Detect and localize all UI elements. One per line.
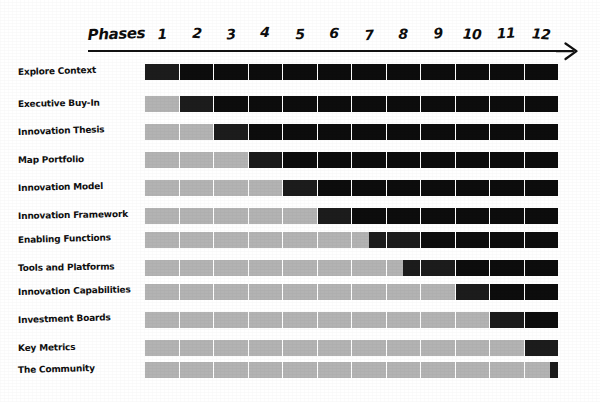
phase-cell bbox=[490, 312, 525, 328]
phase-cell bbox=[421, 312, 456, 328]
phase-cell bbox=[249, 312, 284, 328]
phase-cell bbox=[421, 362, 456, 378]
row-label: Key Metrics bbox=[18, 342, 75, 353]
phase-cell bbox=[283, 340, 318, 356]
row-bar bbox=[145, 340, 558, 356]
row-bar bbox=[145, 260, 558, 276]
row-bar bbox=[145, 362, 558, 378]
phase-cell bbox=[145, 284, 180, 300]
phase-cell bbox=[283, 180, 318, 196]
phase-cell bbox=[387, 232, 422, 248]
phase-cell bbox=[145, 124, 180, 140]
chart-row: Innovation Thesis bbox=[0, 124, 600, 140]
phase-label-9: 9 bbox=[423, 24, 453, 43]
phase-cell bbox=[456, 208, 491, 224]
row-bar bbox=[145, 232, 558, 248]
phase-cell bbox=[525, 124, 559, 140]
phase-cell bbox=[318, 64, 353, 80]
phase-cell bbox=[214, 124, 249, 140]
row-label: The Community bbox=[18, 363, 95, 375]
phase-cell bbox=[249, 284, 284, 300]
phase-cell bbox=[180, 312, 215, 328]
phase-cell bbox=[352, 152, 387, 168]
phase-cell bbox=[283, 260, 318, 276]
phase-cell bbox=[145, 152, 180, 168]
row-label: Innovation Capabilities bbox=[18, 284, 131, 297]
phase-cell-light-part bbox=[525, 362, 550, 378]
phase-cell bbox=[214, 96, 249, 112]
phase-cell bbox=[352, 180, 387, 196]
row-label: Enabling Functions bbox=[18, 232, 111, 245]
phase-cell bbox=[456, 96, 491, 112]
phase-cell bbox=[352, 96, 387, 112]
phase-cell bbox=[318, 362, 353, 378]
phase-label-8: 8 bbox=[389, 26, 418, 43]
phase-cell bbox=[214, 64, 249, 80]
phase-cell bbox=[352, 232, 387, 248]
chart-row: Innovation Model bbox=[0, 180, 600, 196]
phase-cell bbox=[145, 208, 180, 224]
phase-cell bbox=[318, 180, 353, 196]
row-label: Innovation Thesis bbox=[18, 124, 105, 137]
chart-row: Enabling Functions bbox=[0, 232, 600, 248]
phase-cell bbox=[421, 180, 456, 196]
phase-cell bbox=[145, 362, 180, 378]
phase-cell bbox=[525, 340, 559, 356]
phase-cell bbox=[490, 152, 525, 168]
phase-cell bbox=[249, 208, 284, 224]
phase-cell bbox=[456, 124, 491, 140]
phase-cell bbox=[525, 260, 559, 276]
phase-cell bbox=[283, 96, 318, 112]
phase-cell bbox=[352, 312, 387, 328]
phase-cell bbox=[180, 362, 215, 378]
phase-cell bbox=[456, 284, 491, 300]
phase-cell bbox=[318, 124, 353, 140]
phase-cell bbox=[387, 208, 422, 224]
phase-cell bbox=[421, 64, 456, 80]
phase-label-2: 2 bbox=[182, 24, 211, 42]
phase-cell bbox=[180, 208, 215, 224]
phase-cell bbox=[180, 284, 215, 300]
phase-cell bbox=[352, 340, 387, 356]
row-bar bbox=[145, 64, 558, 80]
phase-cell bbox=[249, 260, 284, 276]
phase-cell bbox=[249, 124, 284, 140]
phase-cell bbox=[318, 208, 353, 224]
phase-cell bbox=[456, 64, 491, 80]
phase-cell bbox=[421, 124, 456, 140]
phase-cell bbox=[283, 232, 318, 248]
phase-cell bbox=[318, 96, 353, 112]
phase-cell bbox=[145, 260, 180, 276]
phase-cell bbox=[352, 124, 387, 140]
row-label: Tools and Platforms bbox=[18, 261, 115, 273]
phase-cell bbox=[318, 152, 353, 168]
phase-cell bbox=[318, 340, 353, 356]
phase-cell bbox=[456, 340, 491, 356]
phase-cell-light-part bbox=[387, 260, 404, 276]
chart-row: Innovation Framework bbox=[0, 208, 600, 224]
phase-cell bbox=[525, 152, 559, 168]
phase-cell bbox=[145, 180, 180, 196]
row-label: Map Portfolio bbox=[18, 154, 84, 165]
phase-cell bbox=[387, 96, 422, 112]
phase-cell bbox=[352, 208, 387, 224]
phase-cell bbox=[249, 96, 284, 112]
phase-cell bbox=[490, 208, 525, 224]
phase-cell bbox=[456, 312, 491, 328]
phase-cell bbox=[490, 232, 525, 248]
row-bar bbox=[145, 124, 558, 140]
phase-label-4: 4 bbox=[251, 23, 280, 40]
phase-cell bbox=[283, 152, 318, 168]
phase-cell bbox=[525, 284, 559, 300]
phase-cell bbox=[180, 232, 215, 248]
phase-label-11: 11 bbox=[492, 24, 521, 41]
phase-cell bbox=[145, 340, 180, 356]
phase-cell bbox=[180, 180, 215, 196]
phase-cell bbox=[249, 362, 284, 378]
phase-cell bbox=[456, 362, 491, 378]
phase-cell bbox=[456, 260, 491, 276]
phase-cell bbox=[387, 152, 422, 168]
row-bar bbox=[145, 96, 558, 112]
phase-cell bbox=[387, 64, 422, 80]
phase-cell bbox=[490, 362, 525, 378]
